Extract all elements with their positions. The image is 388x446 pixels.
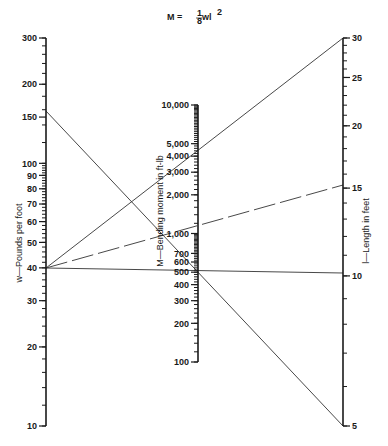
isopleth-40-15-dashed: [46, 185, 343, 268]
tick-label-w-200: 200: [22, 79, 37, 89]
tick-label-l-15: 15: [352, 183, 362, 193]
tick-label-w-80: 80: [27, 184, 37, 194]
nomogram-chart: M = 1 8 wl 2 102030405060708090100150200…: [0, 0, 388, 446]
tick-label-M-600: 600: [174, 257, 189, 267]
tick-label-M-1000: 1,000: [166, 229, 189, 239]
formula-title: M = 1 8 wl 2: [167, 7, 222, 26]
tick-label-w-90: 90: [27, 171, 37, 181]
axis-l-title: l—Length in feet: [361, 198, 371, 264]
tick-label-w-100: 100: [22, 159, 37, 169]
axis-w-title: w—Pounds per foot: [14, 203, 24, 284]
tick-label-M-10000: 10,000: [161, 100, 189, 110]
formula-rhs: wl: [201, 12, 212, 22]
tick-label-l-10: 10: [352, 271, 362, 281]
tick-label-w-150: 150: [22, 112, 37, 122]
tick-label-w-30: 30: [27, 296, 37, 306]
tick-label-w-70: 70: [27, 199, 37, 209]
tick-label-w-300: 300: [22, 33, 37, 43]
tick-label-M-700: 700: [174, 249, 189, 259]
tick-label-M-5000: 5,000: [166, 139, 189, 149]
tick-label-l-30: 30: [352, 33, 362, 43]
tick-label-w-40: 40: [27, 263, 37, 273]
formula-sup: 2: [217, 7, 222, 17]
tick-label-M-300: 300: [174, 296, 189, 306]
tick-label-M-3000: 3,000: [166, 167, 189, 177]
tick-label-l-25: 25: [352, 73, 362, 83]
tick-label-w-50: 50: [27, 238, 37, 248]
tick-label-M-400: 400: [174, 280, 189, 290]
axis-w-pounds-per-foot: 102030405060708090100150200300 w—Pounds …: [14, 33, 46, 431]
axis-l-length-in-feet: 51015202530 l—Length in feet: [343, 33, 371, 431]
tick-label-M-200: 200: [174, 319, 189, 329]
tick-label-w-60: 60: [27, 217, 37, 227]
isopleths: [46, 38, 343, 426]
tick-label-l-20: 20: [352, 121, 362, 131]
tick-label-M-500: 500: [174, 267, 189, 277]
axis-m-title: M—Bending moment in ft-lb: [155, 155, 165, 267]
tick-label-M-100: 100: [174, 357, 189, 367]
tick-label-w-10: 10: [27, 421, 37, 431]
axis-m-bending-moment: 1002003004005006007001,0002,0003,0004,00…: [155, 100, 198, 367]
tick-label-w-20: 20: [27, 342, 37, 352]
tick-label-l-5: 5: [352, 421, 357, 431]
formula-lhs: M =: [167, 12, 182, 22]
tick-label-M-4000: 4,000: [166, 151, 189, 161]
tick-label-M-2000: 2,000: [166, 190, 189, 200]
